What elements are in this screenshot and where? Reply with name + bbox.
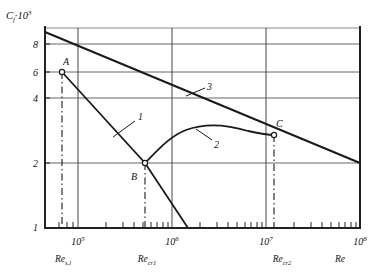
y-axis-title-mid: ·10 xyxy=(15,10,29,21)
annot-re-cr2-sub: cr2 xyxy=(283,259,292,266)
x-tick-1e8-base: 10 xyxy=(353,236,363,247)
annot-re-base: Re xyxy=(334,254,345,264)
annot-re-cr2-base: Re xyxy=(272,254,283,264)
x-annotation-re: Re xyxy=(334,254,345,264)
curve-label-1: 1 xyxy=(138,111,143,122)
point-marker-a xyxy=(59,69,64,74)
y-axis-title-sup: 3 xyxy=(27,9,32,17)
annot-re-sl-base: Re xyxy=(54,254,65,264)
chart-background xyxy=(0,0,392,272)
point-label-a: A xyxy=(62,56,70,67)
point-label-c: C xyxy=(276,118,283,129)
annot-re-cr1-base: Re xyxy=(137,254,148,264)
x-tick-1e8-sup: 8 xyxy=(363,235,367,243)
y-tick-label-2: 2 xyxy=(33,158,38,169)
point-label-b: B xyxy=(131,171,137,182)
point-marker-b xyxy=(142,160,147,165)
annot-re-sl-sub: s,l xyxy=(65,259,71,266)
x-tick-1e5-base: 10 xyxy=(71,236,81,247)
x-tick-1e5-sup: 5 xyxy=(81,235,85,243)
y-tick-label-8: 8 xyxy=(33,39,38,50)
curve-label-2: 2 xyxy=(214,139,219,150)
y-tick-label-6: 6 xyxy=(33,67,38,78)
curve-label-3: 3 xyxy=(206,81,212,92)
x-tick-1e6-sup: 6 xyxy=(175,235,179,243)
y-tick-label-4: 4 xyxy=(33,93,38,104)
x-tick-1e7-base: 10 xyxy=(259,236,269,247)
annot-re-cr1-sub: cr1 xyxy=(148,259,157,266)
x-tick-1e7-sup: 7 xyxy=(269,235,273,243)
chart-figure: Cf·103 8 6 4 2 1 105 106 107 108 Res,l R… xyxy=(0,0,392,272)
x-tick-1e6-base: 10 xyxy=(165,236,175,247)
point-marker-c xyxy=(271,132,276,137)
chart-svg: Cf·103 8 6 4 2 1 105 106 107 108 Res,l R… xyxy=(0,0,392,272)
y-tick-label-1: 1 xyxy=(33,222,38,233)
